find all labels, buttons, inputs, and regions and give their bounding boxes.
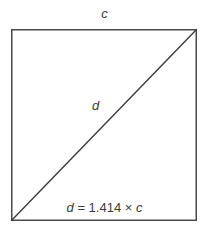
formula-coefficient: 1.414 xyxy=(89,200,122,215)
formula-equals: = xyxy=(77,200,85,215)
formula-relation: d = 1.414 × c xyxy=(0,201,209,214)
side-label-c: c xyxy=(0,7,209,20)
diagonal-label-d: d xyxy=(92,99,99,112)
square-diagonal-drawing xyxy=(0,0,209,233)
formula-rhs: c xyxy=(136,200,143,215)
diagonal-line xyxy=(12,30,197,221)
figure-canvas: c d d = 1.414 × c xyxy=(0,0,209,233)
formula-lhs: d xyxy=(67,200,74,215)
